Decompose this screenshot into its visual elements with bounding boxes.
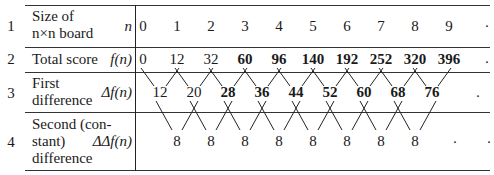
n-value: 4	[275, 18, 283, 35]
first-difference-value: 20	[187, 84, 202, 101]
second-difference-value: 8	[241, 133, 249, 150]
f-value: ·	[485, 54, 490, 71]
f-value: 60	[238, 51, 253, 68]
first-difference-value: 36	[255, 84, 270, 101]
n-value: 6	[343, 18, 351, 35]
connector-line	[438, 68, 451, 86]
f-value: 96	[272, 51, 287, 68]
second-difference-value: 8	[173, 133, 181, 150]
connector-line	[360, 101, 376, 130]
connector-line	[318, 101, 334, 130]
first-difference-value: ·	[476, 88, 481, 105]
f-value: 0	[139, 51, 147, 68]
n-value: 3	[241, 18, 249, 35]
f-value: 192	[336, 51, 359, 68]
n-value: 1	[173, 18, 181, 35]
n-value: 5	[309, 18, 317, 35]
n-value: 2	[207, 18, 215, 35]
connector-line	[156, 101, 172, 130]
n-value: 7	[377, 18, 385, 35]
n-value: ·	[485, 18, 490, 35]
connector-line	[190, 101, 206, 130]
connector-line	[394, 101, 410, 130]
f-value: 252	[370, 51, 393, 68]
first-difference-value: 12	[153, 84, 168, 101]
first-difference-value: 68	[391, 84, 406, 101]
n-value: 9	[445, 18, 453, 35]
second-difference-value: 8	[309, 133, 317, 150]
connector-line	[420, 101, 436, 130]
f-value: 32	[204, 51, 219, 68]
first-difference-value: 28	[221, 84, 236, 101]
connector-line	[216, 101, 232, 130]
second-difference-value: 8	[343, 133, 351, 150]
first-difference-value: 52	[323, 84, 338, 101]
connector-line	[284, 101, 300, 130]
f-value: 396	[438, 51, 461, 68]
connector-line	[292, 101, 308, 130]
second-difference-value: 8	[411, 133, 419, 150]
f-value: 12	[170, 51, 185, 68]
first-difference-value: 44	[289, 84, 304, 101]
second-difference-value: ·	[453, 134, 458, 151]
f-value: 140	[302, 51, 325, 68]
connector-line	[326, 101, 342, 130]
n-value: 8	[411, 18, 419, 35]
n-value: 0	[139, 18, 147, 35]
connector-line	[386, 101, 402, 130]
second-difference-value: 8	[275, 133, 283, 150]
connector-line	[250, 101, 266, 130]
connector-line	[352, 101, 368, 130]
second-difference-value: ·	[487, 134, 492, 151]
second-difference-value: 8	[377, 133, 385, 150]
connector-line	[258, 101, 274, 130]
first-difference-value: 76	[425, 84, 440, 101]
second-difference-value: 8	[207, 133, 215, 150]
first-difference-value: 60	[357, 84, 372, 101]
connector-line	[182, 101, 198, 130]
connector-line	[224, 101, 240, 130]
f-value: 320	[404, 51, 427, 68]
